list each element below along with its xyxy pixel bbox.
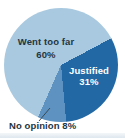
bottom-edge-band [0, 133, 125, 138]
slice-label-text: No opinion [9, 120, 60, 131]
slice-label-text: Justified [58, 65, 120, 76]
slice-label-justified: Justified 31% [58, 65, 120, 87]
slice-label-text: Went too far [6, 36, 86, 49]
slice-label-went-too-far: Went too far 60% [6, 36, 86, 61]
slice-label-no-opinion: No opinion 8% [9, 121, 119, 131]
slice-label-pct: 31% [58, 76, 120, 87]
slice-label-pct: 60% [6, 49, 86, 62]
pie-chart-figure: Went too far 60% Justified 31% No opinio… [0, 0, 125, 138]
slice-label-pct: 8% [62, 120, 76, 131]
